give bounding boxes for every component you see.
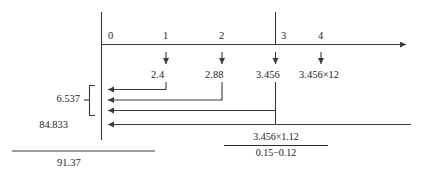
diagram-canvas: 0 1 2 3 4 2.4 2.88 3.456 3.456×12 6.537 … [0,0,421,178]
expression-fraction: 3.456×1.12 0.15−0.12 [224,131,328,159]
step-value-4: 3.456×12 [299,70,339,81]
step-value-1: 2.4 [151,70,164,81]
fraction-numerator: 3.456×1.12 [224,131,328,146]
step-value-3: 3.456 [256,70,280,81]
tick-label-2: 2 [219,31,224,42]
group-bracket [90,86,96,116]
result-label: 91.37 [57,158,81,169]
tick-label-3: 3 [281,31,286,42]
tick-label-1: 1 [163,31,168,42]
group-label: 6.537 [46,94,80,105]
return-arrow-2 [108,82,222,100]
return-arrow-3 [108,82,276,111]
diagram-vector-layer [0,0,421,178]
fraction-denominator: 0.15−0.12 [224,146,328,160]
tick-label-4: 4 [318,31,323,42]
return-arrow-1 [108,82,166,90]
total-label: 84.833 [22,120,68,131]
tick-label-0: 0 [108,31,113,42]
step-value-2: 2.88 [205,70,223,81]
return-arrow-4-left [108,111,276,125]
